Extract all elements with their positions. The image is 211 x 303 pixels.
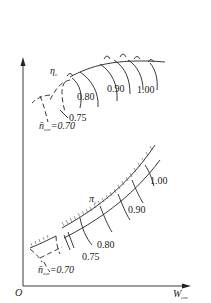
pressure-ratio-map: πc 0.75 0.80 0.90 1.00 n̄cor=0.70 bbox=[30, 145, 168, 276]
pressure-min-speed-label: n̄cor=0.70 bbox=[38, 264, 74, 276]
pressure-dashed-line-070b bbox=[40, 247, 62, 258]
efficiency-peak-loop bbox=[134, 57, 140, 60]
pressure-label-100: 1.00 bbox=[150, 175, 168, 186]
pressure-dashed-line-075 bbox=[56, 236, 60, 254]
axes bbox=[21, 57, 192, 289]
pressure-ratio-symbol: πc bbox=[89, 193, 97, 205]
pressure-speed-line-080 bbox=[80, 218, 92, 245]
pressure-speed-line-095 bbox=[132, 180, 143, 203]
pressure-label-090: 0.90 bbox=[128, 204, 146, 215]
efficiency-dashed-line-075 bbox=[62, 82, 65, 112]
efficiency-label-100: 1.00 bbox=[137, 84, 155, 95]
efficiency-label-090: 0.90 bbox=[107, 83, 125, 94]
efficiency-leader-075 bbox=[60, 110, 68, 118]
pressure-speed-line-075 bbox=[64, 232, 74, 250]
efficiency-symbol: ηc bbox=[50, 65, 58, 77]
efficiency-label-080: 0.80 bbox=[77, 91, 95, 102]
surge-line bbox=[62, 145, 155, 228]
pressure-dashed-line-070 bbox=[30, 249, 42, 262]
efficiency-dashed-line-070b bbox=[40, 96, 48, 122]
efficiency-dashed-line bbox=[50, 80, 70, 100]
pressure-label-075: 0.75 bbox=[82, 251, 100, 262]
y-axis-arrow-icon bbox=[21, 57, 26, 66]
pressure-label-080: 0.80 bbox=[97, 239, 115, 250]
x-axis-arrow-icon bbox=[182, 284, 191, 289]
efficiency-peak-loop bbox=[120, 54, 126, 57]
efficiency-min-speed-label: n̄cor=0.70 bbox=[39, 120, 75, 132]
compressor-map-diagram: ηc 0.75 0.80 0.90 1.00 n̄cor=0.70 πc 0.7… bbox=[0, 0, 211, 303]
x-axis-label: Wcor bbox=[173, 288, 188, 300]
pressure-operating-line bbox=[64, 160, 160, 238]
efficiency-map: ηc 0.75 0.80 0.90 1.00 n̄cor=0.70 bbox=[32, 54, 165, 132]
efficiency-peak-loop bbox=[104, 56, 110, 59]
origin-label: O bbox=[15, 287, 22, 298]
